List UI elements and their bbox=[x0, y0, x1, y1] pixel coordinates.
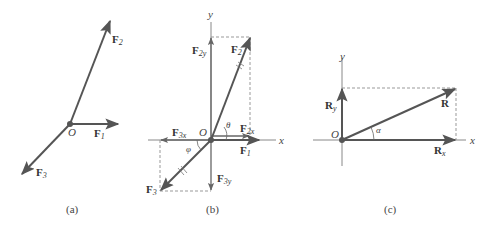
angle-phi-arc bbox=[197, 140, 201, 150]
panel-c: x y O α R Rx Ry (c) bbox=[313, 50, 475, 216]
label-f3: F3 bbox=[146, 183, 157, 197]
origin-point bbox=[339, 137, 345, 143]
caption-b: (b) bbox=[206, 203, 219, 216]
label-f2x: F2x bbox=[240, 122, 255, 136]
label-r: R bbox=[441, 97, 450, 109]
panel-a: O F1 F2 F3 (a) bbox=[22, 21, 123, 216]
x-axis-label: x bbox=[278, 134, 284, 146]
y-axis-label: y bbox=[339, 50, 345, 62]
angle-alpha-label: α bbox=[376, 125, 381, 135]
label-f1: F1 bbox=[240, 144, 251, 158]
angle-phi-label: φ bbox=[186, 144, 191, 154]
force-diagram: O F1 F2 F3 (a) x y O θ bbox=[0, 0, 496, 228]
label-f3x: F3x bbox=[172, 126, 187, 140]
label-f3y: F3y bbox=[217, 172, 232, 186]
label-f1: F1 bbox=[94, 127, 105, 141]
panel-b: x y O θ φ F1 F2 F3 F2y F2x F3x F3y bbox=[146, 8, 284, 216]
label-f2y: F2y bbox=[192, 44, 207, 58]
x-axis-label: x bbox=[469, 134, 475, 146]
y-axis-label: y bbox=[207, 8, 213, 20]
label-f2: F2 bbox=[231, 43, 242, 57]
label-f2: F2 bbox=[112, 33, 123, 47]
vector-r bbox=[342, 89, 455, 140]
vector-f3 bbox=[22, 124, 70, 174]
caption-a: (a) bbox=[66, 203, 79, 216]
origin-point bbox=[208, 137, 214, 143]
origin-label: O bbox=[331, 128, 339, 140]
origin-label: O bbox=[199, 126, 207, 138]
angle-alpha-arc bbox=[371, 127, 374, 140]
origin-label: O bbox=[68, 126, 76, 138]
label-rx: Rx bbox=[434, 144, 446, 158]
vector-f2 bbox=[70, 21, 110, 124]
caption-c: (c) bbox=[384, 203, 397, 216]
angle-theta-label: θ bbox=[226, 120, 231, 130]
label-ry: Ry bbox=[325, 99, 337, 113]
label-f3: F3 bbox=[36, 166, 47, 180]
